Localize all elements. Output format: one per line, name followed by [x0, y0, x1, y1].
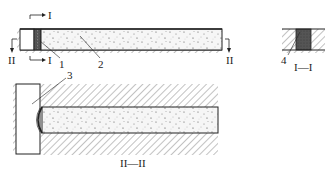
right-hatch: [311, 29, 325, 50]
section-title-I-I: I—I: [294, 61, 313, 73]
rock-hatch-top: [40, 84, 218, 107]
svg-text:I: I: [48, 9, 52, 21]
svg-text:II: II: [226, 54, 234, 66]
left-hatch: [282, 29, 296, 50]
svg-text:II: II: [8, 54, 16, 66]
section-title-II-II: II—II: [120, 157, 146, 169]
section-I-I-view: 4 I—I: [281, 29, 325, 73]
diagram-canvas: I I II II 1 2: [0, 0, 335, 182]
rod-body: [41, 29, 222, 50]
svg-text:I: I: [48, 54, 52, 66]
section-II-II-view: 3 II—II: [13, 69, 218, 169]
section-marker-II-right: II: [225, 39, 234, 66]
svg-text:1: 1: [59, 58, 65, 70]
section-marker-II-left: II: [8, 39, 17, 66]
section-core: [296, 29, 311, 50]
plan-view: I I II II 1 2: [8, 9, 234, 70]
svg-text:4: 4: [281, 54, 287, 66]
rock-hatch-bottom: [40, 133, 218, 155]
section-marker-I-bottom: I: [30, 54, 52, 66]
svg-text:3: 3: [67, 69, 73, 81]
svg-text:2: 2: [98, 58, 104, 70]
section-marker-I-top: I: [30, 9, 52, 21]
end-block: [20, 29, 34, 50]
rod-body-section: [42, 107, 218, 133]
